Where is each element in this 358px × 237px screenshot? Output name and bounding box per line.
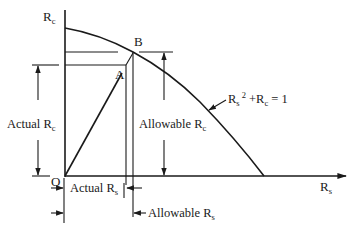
actual-rc-label: Actual Rc	[7, 117, 56, 133]
point-b-label: B	[134, 34, 143, 49]
equation-leader-arrow	[209, 100, 226, 110]
rc-axis-label: Rc	[43, 9, 56, 26]
allowable-rc-label: Allowable Rc	[139, 117, 207, 133]
allowable-rs-label: Allowable Rs	[148, 206, 215, 222]
interaction-diagram: Actual Rc Allowable Rc Actual Rs Allowab…	[0, 0, 358, 237]
point-a-label: A	[115, 67, 125, 82]
origin-label: O	[51, 174, 60, 189]
actual-rs-label: Actual Rs	[70, 181, 118, 197]
curve-equation-label: Rs2 +Rc = 1	[228, 90, 288, 108]
load-line-oa	[65, 73, 122, 176]
a-to-b-diagonal	[126, 53, 133, 65]
rs-axis-label: Rs	[320, 179, 332, 196]
